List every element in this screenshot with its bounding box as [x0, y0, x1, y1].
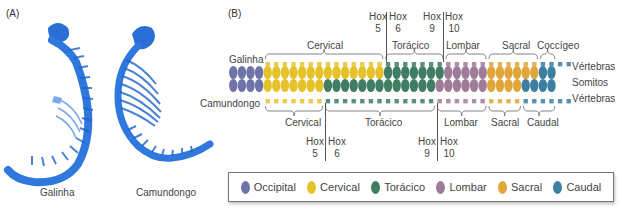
legend-item-cervical: Cervical	[307, 181, 360, 194]
mouse-somite	[229, 79, 237, 92]
mouse-vertebra	[429, 99, 433, 103]
chicken-vertebra	[360, 62, 364, 66]
mouse-vertebra	[446, 99, 450, 103]
mouse-hox9-10-boundary-line	[437, 103, 438, 161]
chicken-vertebra	[395, 62, 399, 66]
mouse-somite	[307, 79, 315, 92]
chicken-vertebra	[558, 62, 562, 66]
chicken-vertebra	[438, 62, 442, 66]
region-brace	[326, 106, 435, 116]
mouse-hox5-6-boundary-line	[325, 103, 326, 161]
chicken-hox9-10-boundary-line	[443, 12, 444, 62]
mouse-vertebra	[369, 99, 373, 103]
chicken-somite	[341, 66, 349, 79]
region-brace	[265, 106, 322, 116]
chicken-somite	[272, 66, 280, 79]
mouse-lumbar-label: Lombar	[444, 117, 478, 128]
chicken-coccygeal-label: Coccígeo	[537, 40, 579, 51]
mouse-vertebra	[274, 99, 278, 103]
chicken-vertebra	[386, 62, 390, 66]
mouse-vertebra	[489, 99, 493, 103]
chicken-vertebra	[291, 62, 295, 66]
mouse-somite	[418, 79, 426, 92]
chicken-vertebra	[481, 62, 485, 66]
mouse-vertebra	[309, 99, 313, 103]
region-brace	[523, 106, 554, 116]
mouse-vertebra	[266, 99, 270, 103]
mouse-somite	[367, 79, 375, 92]
mouse-vertebra	[412, 99, 416, 103]
chicken-vertebra	[420, 62, 424, 66]
mouse-vertebra	[317, 99, 321, 103]
chicken-somite	[547, 66, 555, 79]
mouse-somite	[522, 79, 530, 92]
chicken-somite	[410, 66, 418, 79]
chicken-hox10-label: Hox10	[445, 11, 463, 35]
chicken-vertebra	[266, 62, 270, 66]
mouse-vertebra	[360, 99, 364, 103]
mouse-somite	[324, 79, 332, 92]
chicken-somite	[264, 66, 272, 79]
chicken-vertebra	[446, 62, 450, 66]
legend-item-sacral: Sacral	[498, 181, 542, 194]
legend-item-occipital: Occipital	[241, 181, 296, 194]
chicken-somite	[479, 66, 487, 79]
mouse-somite	[444, 79, 452, 92]
chicken-somite	[238, 66, 246, 79]
chicken-vertebra	[472, 62, 476, 66]
mouse-hox5-label: Hox5	[306, 136, 324, 160]
cervical-swatch-icon	[307, 181, 316, 194]
mouse-vertebra	[395, 99, 399, 103]
chicken-vertebra	[463, 62, 467, 66]
chicken-cervical-label: Cervical	[307, 40, 343, 51]
chicken-somite	[358, 66, 366, 79]
chicken-somite	[427, 66, 435, 79]
chicken-vertebra	[326, 62, 330, 66]
chicken-somite	[375, 66, 383, 79]
mouse-sacral-label: Sacral	[491, 117, 519, 128]
mouse-vertebra	[532, 99, 536, 103]
mouse-somite	[504, 79, 512, 92]
chicken-somite	[315, 66, 323, 79]
mouse-vertebra	[326, 99, 330, 103]
mouse-vertebra	[463, 99, 467, 103]
mouse-vertebra	[524, 99, 528, 103]
chicken-somite	[367, 66, 375, 79]
chicken-somite	[436, 66, 444, 79]
chicken-vertebra	[300, 62, 304, 66]
mouse-somite	[410, 79, 418, 92]
chicken-somite	[504, 66, 512, 79]
mouse-somite	[281, 79, 289, 92]
chicken-somite	[461, 66, 469, 79]
mouse-somite	[470, 79, 478, 92]
mouse-vertebra	[283, 99, 287, 103]
mouse-hox9-label: Hox9	[418, 136, 436, 160]
legend-box: Occipital Cervical Torácico Lombar Sacra…	[228, 172, 614, 202]
chicken-somite	[393, 66, 401, 79]
mouse-vertebra	[352, 99, 356, 103]
thoracic-swatch-icon	[371, 181, 380, 194]
region-brace	[437, 106, 486, 116]
mouse-somite	[393, 79, 401, 92]
chicken-vertebra	[317, 62, 321, 66]
chicken-vertebra	[274, 62, 278, 66]
chicken-somite	[298, 66, 306, 79]
region-brace	[489, 106, 520, 116]
mouse-vertebra	[567, 99, 571, 103]
chicken-caption: Galinha	[40, 187, 74, 198]
chicken-sacral-label: Sacral	[502, 40, 530, 51]
chicken-somite	[289, 66, 297, 79]
chicken-vertebra	[549, 62, 553, 66]
occipital-swatch-icon	[241, 181, 250, 194]
chicken-somite	[539, 66, 547, 79]
mouse-vertebra	[455, 99, 459, 103]
chicken-somite	[522, 66, 530, 79]
chicken-vertebra	[455, 62, 459, 66]
legend-item-thoracic: Torácico	[371, 181, 425, 194]
chicken-vertebra	[541, 62, 545, 66]
mouse-somite	[436, 79, 444, 92]
chicken-thoracic-label: Torácico	[392, 40, 429, 51]
chicken-vertebra	[567, 62, 571, 66]
mouse-somite	[341, 79, 349, 92]
mouse-somite	[332, 79, 340, 92]
